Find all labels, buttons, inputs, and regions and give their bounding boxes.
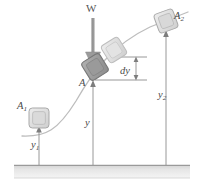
dimension-y-arrowhead [90,80,96,87]
ground-surface [14,165,190,178]
label-height-y1-base: y [31,139,36,150]
dimension-y [90,80,96,165]
label-block-A1-subscript: 1 [24,105,28,113]
label-block-A2-base: A [174,10,180,21]
label-height-y2-base: y [158,89,163,100]
label-block-A2: A2 [174,11,184,23]
block-A1-inner [33,112,46,125]
label-block-A: A [79,78,85,89]
label-height-y1: y1 [31,140,39,152]
block-A-ghost [100,36,128,64]
label-height-y2: y2 [158,90,166,102]
block-A1 [29,108,49,128]
physics-diagram-figure: W A A1 A2 y y1 y2 dy [0,0,203,183]
weight-arrow-shaft [91,18,94,56]
label-height-y: y [85,118,90,129]
diagram-canvas [0,0,203,183]
label-block-A1-base: A [17,100,23,111]
label-differential-height: dy [120,66,130,77]
label-height-y1-subscript: 1 [36,144,40,152]
label-height-y2-subscript: 2 [163,94,167,102]
label-block-A1: A1 [17,101,27,113]
label-weight: W [86,3,96,14]
ground-fill [14,165,190,178]
label-block-A2-subscript: 2 [181,15,185,23]
